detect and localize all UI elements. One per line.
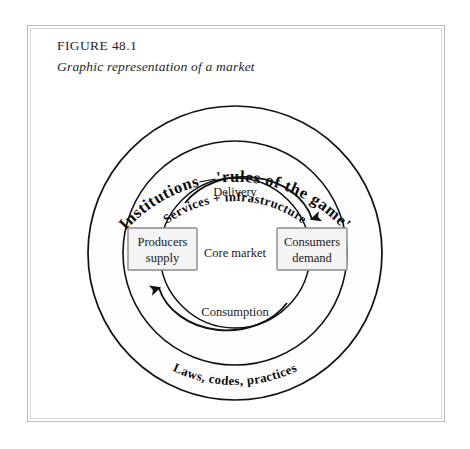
- figure-container: FIGURE 48.1 Graphic representation of a …: [0, 0, 470, 449]
- market-diagram: Institutions—'rules of the game' Service…: [0, 0, 470, 449]
- consumers-box[interactable]: Consumers demand: [277, 228, 347, 270]
- core-market-label: Core market: [204, 246, 267, 260]
- consumers-box-line2: demand: [292, 251, 332, 265]
- consumption-label: Consumption: [201, 305, 269, 319]
- producers-box-line2: supply: [146, 251, 180, 265]
- producers-box[interactable]: Producers supply: [128, 228, 197, 270]
- delivery-label: Delivery: [213, 185, 257, 199]
- consumers-box-line1: Consumers: [284, 235, 340, 249]
- producers-box-line1: Producers: [138, 235, 188, 249]
